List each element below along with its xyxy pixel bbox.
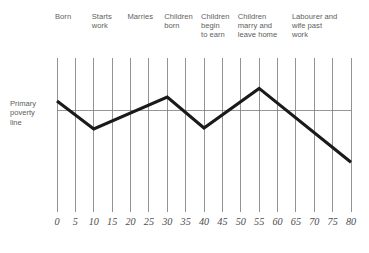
- x-tick-label-60: 60: [272, 216, 282, 227]
- x-tick-label-0: 0: [54, 216, 59, 227]
- x-axis-tick-labels: 05101520253035404550556065707580: [0, 216, 369, 232]
- gridlines: [57, 58, 351, 212]
- x-tick-label-70: 70: [309, 216, 319, 227]
- poverty-cycle-chart: Primary poverty line BornStarts workMarr…: [0, 0, 369, 253]
- x-tick-label-75: 75: [328, 216, 338, 227]
- x-tick-label-25: 25: [144, 216, 154, 227]
- x-tick-label-5: 5: [73, 216, 78, 227]
- x-tick-label-80: 80: [346, 216, 356, 227]
- x-tick-label-65: 65: [291, 216, 301, 227]
- x-tick-label-30: 30: [162, 216, 172, 227]
- x-tick-label-40: 40: [199, 216, 209, 227]
- x-tick-label-20: 20: [125, 216, 135, 227]
- x-tick-label-50: 50: [236, 216, 246, 227]
- x-tick-label-15: 15: [107, 216, 117, 227]
- x-tick-label-35: 35: [181, 216, 191, 227]
- x-tick-label-10: 10: [89, 216, 99, 227]
- x-tick-label-55: 55: [254, 216, 264, 227]
- x-tick-label-45: 45: [217, 216, 227, 227]
